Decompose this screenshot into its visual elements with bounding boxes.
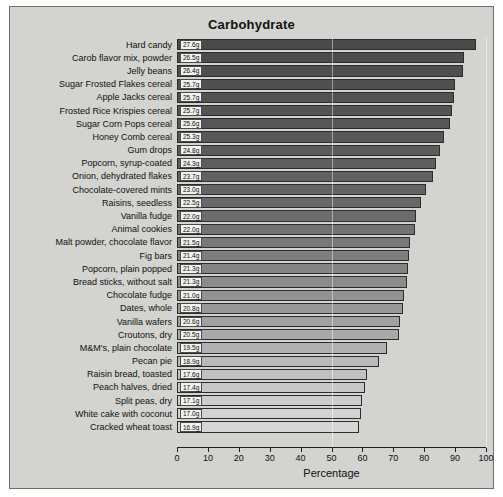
- bar-row: Popcorn, plain popped21.3g: [10, 262, 495, 275]
- bar-value-label: 20.6g: [180, 317, 202, 327]
- bar: [177, 250, 409, 261]
- bar-row: Gum drops24.8g: [10, 144, 495, 157]
- category-label: Sugar Corn Pops cereal: [10, 119, 177, 129]
- bar-track: 25.7g: [177, 78, 495, 91]
- bar-row: Jelly beans26.4g: [10, 64, 495, 77]
- bar-row: Split peas, dry17.1g: [10, 394, 495, 407]
- bar: [177, 316, 400, 327]
- bar-track: 22.0g: [177, 209, 495, 222]
- gridline: [332, 38, 333, 447]
- category-label: Popcorn, plain popped: [10, 264, 177, 274]
- x-axis-tick-label: 90: [450, 453, 460, 463]
- category-label: Chocolate fudge: [10, 290, 177, 300]
- x-axis-tick-label: 30: [265, 453, 275, 463]
- bar: [177, 276, 407, 287]
- bar: [177, 39, 476, 50]
- bar-row: Malt powder, chocolate flavor21.5g: [10, 236, 495, 249]
- bar: [177, 395, 362, 406]
- bar: [177, 52, 464, 63]
- category-label: Frosted Rice Krispies cereal: [10, 106, 177, 116]
- bar-value-label: 17.4g: [180, 382, 202, 392]
- category-label: Dates, whole: [10, 303, 177, 313]
- bar-row: Fig bars21.4g: [10, 249, 495, 262]
- bar: [177, 369, 367, 380]
- plot-area: Hard candy27.6gCarob flavor mix, powder2…: [10, 38, 495, 447]
- bar-track: 19.5g: [177, 341, 495, 354]
- x-axis-tick-label: 10: [203, 453, 213, 463]
- category-label: Honey Comb cereal: [10, 132, 177, 142]
- bar: [177, 237, 410, 248]
- bar-value-label: 16.9g: [180, 422, 202, 432]
- bar-track: 17.1g: [177, 394, 495, 407]
- category-label: Sugar Frosted Flakes cereal: [10, 79, 177, 89]
- bar-row: Sugar Corn Pops cereal25.6g: [10, 117, 495, 130]
- category-label: Jelly beans: [10, 66, 177, 76]
- bar-track: 22.5g: [177, 196, 495, 209]
- bar-track: 17.4g: [177, 381, 495, 394]
- bar-value-label: 17.6g: [180, 369, 202, 379]
- category-label: Pecan pie: [10, 356, 177, 366]
- bar-row: Bread sticks, without salt21.3g: [10, 275, 495, 288]
- bar-value-label: 17.1g: [180, 396, 202, 406]
- bar-track: 20.6g: [177, 315, 495, 328]
- category-label: Raisin bread, toasted: [10, 369, 177, 379]
- category-label: White cake with coconut: [10, 409, 177, 419]
- category-label: Carob flavor mix, powder: [10, 53, 177, 63]
- x-axis-tick: [424, 448, 425, 452]
- bar-track: 16.9g: [177, 420, 495, 433]
- category-label: Vanilla wafers: [10, 317, 177, 327]
- bar-value-label: 22.0g: [180, 224, 202, 234]
- bar-value-label: 23.0g: [180, 185, 202, 195]
- bar-row: Vanilla fudge22.0g: [10, 209, 495, 222]
- bar-value-label: 25.7g: [180, 92, 202, 102]
- category-label: Onion, dehydrated flakes: [10, 171, 177, 181]
- bar-row: Popcorn, syrup-coated24.3g: [10, 157, 495, 170]
- bar-track: 20.8g: [177, 302, 495, 315]
- bar: [177, 118, 450, 129]
- bar: [177, 342, 387, 353]
- x-axis-tick: [208, 448, 209, 452]
- category-label: Raisins, seedless: [10, 198, 177, 208]
- bar: [177, 263, 408, 274]
- bar-track: 17.0g: [177, 407, 495, 420]
- bar-track: 21.3g: [177, 262, 495, 275]
- x-axis-tick-label: 20: [234, 453, 244, 463]
- chart-page: Carbohydrate Hard candy27.6gCarob flavor…: [0, 0, 503, 497]
- bar-track: 24.8g: [177, 144, 495, 157]
- bar-row: Chocolate-covered mints23.0g: [10, 183, 495, 196]
- bar-track: 23.0g: [177, 183, 495, 196]
- bar-track: 20.5g: [177, 328, 495, 341]
- category-label: Chocolate-covered mints: [10, 185, 177, 195]
- x-axis-tick: [239, 448, 240, 452]
- bar-row: Pecan pie18.9g: [10, 355, 495, 368]
- x-axis-tick: [455, 448, 456, 452]
- bar-row: Raisin bread, toasted17.6g: [10, 368, 495, 381]
- category-label: Cracked wheat toast: [10, 422, 177, 432]
- category-label: Malt powder, chocolate flavor: [10, 237, 177, 247]
- bar-value-label: 21.3g: [180, 264, 202, 274]
- bar: [177, 92, 454, 103]
- x-axis-tick-label: 50: [326, 453, 336, 463]
- bar-track: 21.4g: [177, 249, 495, 262]
- bar-value-label: 25.7g: [180, 106, 202, 116]
- bar-row: White cake with coconut17.0g: [10, 407, 495, 420]
- bar-track: 25.7g: [177, 104, 495, 117]
- category-label: Vanilla fudge: [10, 211, 177, 221]
- bar-track: 22.0g: [177, 223, 495, 236]
- category-label: Animal cookies: [10, 224, 177, 234]
- bar: [177, 210, 416, 221]
- x-axis-tick-label: 0: [174, 453, 179, 463]
- bar-track: 23.7g: [177, 170, 495, 183]
- bar: [177, 105, 452, 116]
- x-axis-tick: [362, 448, 363, 452]
- bar-value-label: 21.0g: [180, 290, 202, 300]
- bar-value-label: 21.3g: [180, 277, 202, 287]
- chart-title: Carbohydrate: [10, 17, 493, 32]
- bar-value-label: 26.5g: [180, 53, 202, 63]
- bar-value-label: 17.0g: [180, 409, 202, 419]
- bar: [177, 145, 440, 156]
- bar: [177, 224, 415, 235]
- bar-value-label: 24.3g: [180, 158, 202, 168]
- bar-value-label: 25.7g: [180, 79, 202, 89]
- bar-row: Honey Comb cereal25.3g: [10, 130, 495, 143]
